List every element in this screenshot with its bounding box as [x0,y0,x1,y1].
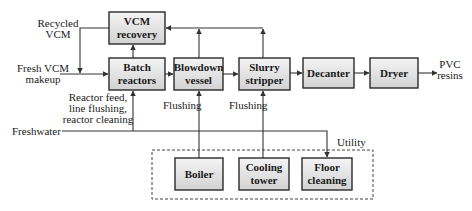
svg-text:VCM: VCM [45,28,70,40]
svg-text:vessel: vessel [185,74,212,86]
svg-text:makeup: makeup [26,73,61,85]
slurry-stripper-box: Slurry stripper [239,58,290,90]
dryer-box: Dryer [370,58,418,88]
decanter-box: Decanter [303,58,354,88]
svg-text:resins: resins [437,69,463,81]
freshwater-label: Freshwater [12,125,61,137]
svg-text:cleaning: cleaning [307,174,347,186]
svg-text:tower: tower [251,174,278,186]
svg-text:Decanter: Decanter [307,67,350,79]
recycled-vcm-arrow [80,28,109,73]
fresh-vcm-label: Fresh VCM makeup [17,62,69,85]
svg-text:Floor: Floor [314,161,340,173]
svg-text:Boiler: Boiler [185,168,214,180]
process-flow-diagram: Utility VCM recovery Batch reactors Blow… [0,0,472,211]
svg-text:reactors: reactors [118,74,157,86]
svg-text:reactor cleaning: reactor cleaning [63,113,134,125]
flushing-label-stripper: Flushing [229,99,268,111]
batch-reactors-box: Batch reactors [109,58,165,90]
flushing-label-blowdown: Flushing [163,99,202,111]
freshwater-header-arrow [62,131,327,157]
svg-text:recovery: recovery [117,28,158,40]
svg-text:Slurry: Slurry [249,61,280,73]
svg-text:Cooling: Cooling [246,161,283,173]
vcm-recovery-box: VCM recovery [109,12,165,44]
boiler-box: Boiler [175,158,223,190]
svg-text:stripper: stripper [246,74,284,86]
svg-text:Blowdown: Blowdown [174,61,224,73]
svg-text:VCM: VCM [124,15,151,27]
floor-cleaning-box: Floor cleaning [302,158,352,190]
utility-label: Utility [337,136,366,148]
reactor-feed-label: Reactor feed, line flushing, reactor cle… [63,91,134,125]
pvc-resins-label: PVC resins [437,58,463,81]
blowdown-vessel-box: Blowdown vessel [174,58,224,90]
cooling-tower-box: Cooling tower [239,158,289,190]
svg-text:Dryer: Dryer [380,67,408,79]
recycled-vcm-label: Recycled VCM [38,17,79,40]
svg-text:Batch: Batch [123,61,151,73]
